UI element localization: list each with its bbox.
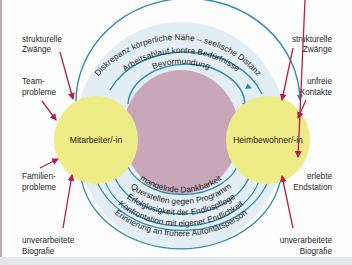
right-factor-4-line2: Biografie [300,247,333,256]
left-factor-3-line2: probleme [22,183,57,192]
right-factor-2-line2: Kontakte [300,88,333,97]
left-factor-1-line1: strukturelle [22,35,62,44]
right-factor-3-line1: erlebte [307,172,332,181]
left-factor-3-line1: Familien- [22,172,56,181]
right-factor-3-line2: Endstation [293,183,332,192]
left-factor-4-line2: Biografie [22,247,55,256]
node-label-mitarbeiter: Mitarbeiter/-in [70,135,123,145]
arrow-right-biografie [282,176,293,228]
node-label-heimbewohner: Heimbewohner/-in [233,135,303,145]
right-factor-2-line1: unfreie [307,77,332,86]
left-factor-1-line2: Zwänge [22,45,52,54]
left-factor-4-line1: unverarbeitete [22,236,75,245]
right-factor-1-line2: Zwänge [303,45,333,54]
arrow-left-biografie [63,175,72,228]
right-factor-1-line1: strukturelle [292,35,332,44]
left-factor-2-line2: probleme [22,88,57,97]
relationship-diagram: Diskrepanz körperliche Nähe – seelische … [0,0,352,265]
arrow-left-familie [40,159,58,168]
arrow-left-team [42,101,56,120]
center-region [123,70,239,194]
arrow-left-strukturelle [60,52,73,99]
right-factor-4-line1: unverarbeitete [280,236,333,245]
left-factor-2-line1: Team- [22,77,45,86]
